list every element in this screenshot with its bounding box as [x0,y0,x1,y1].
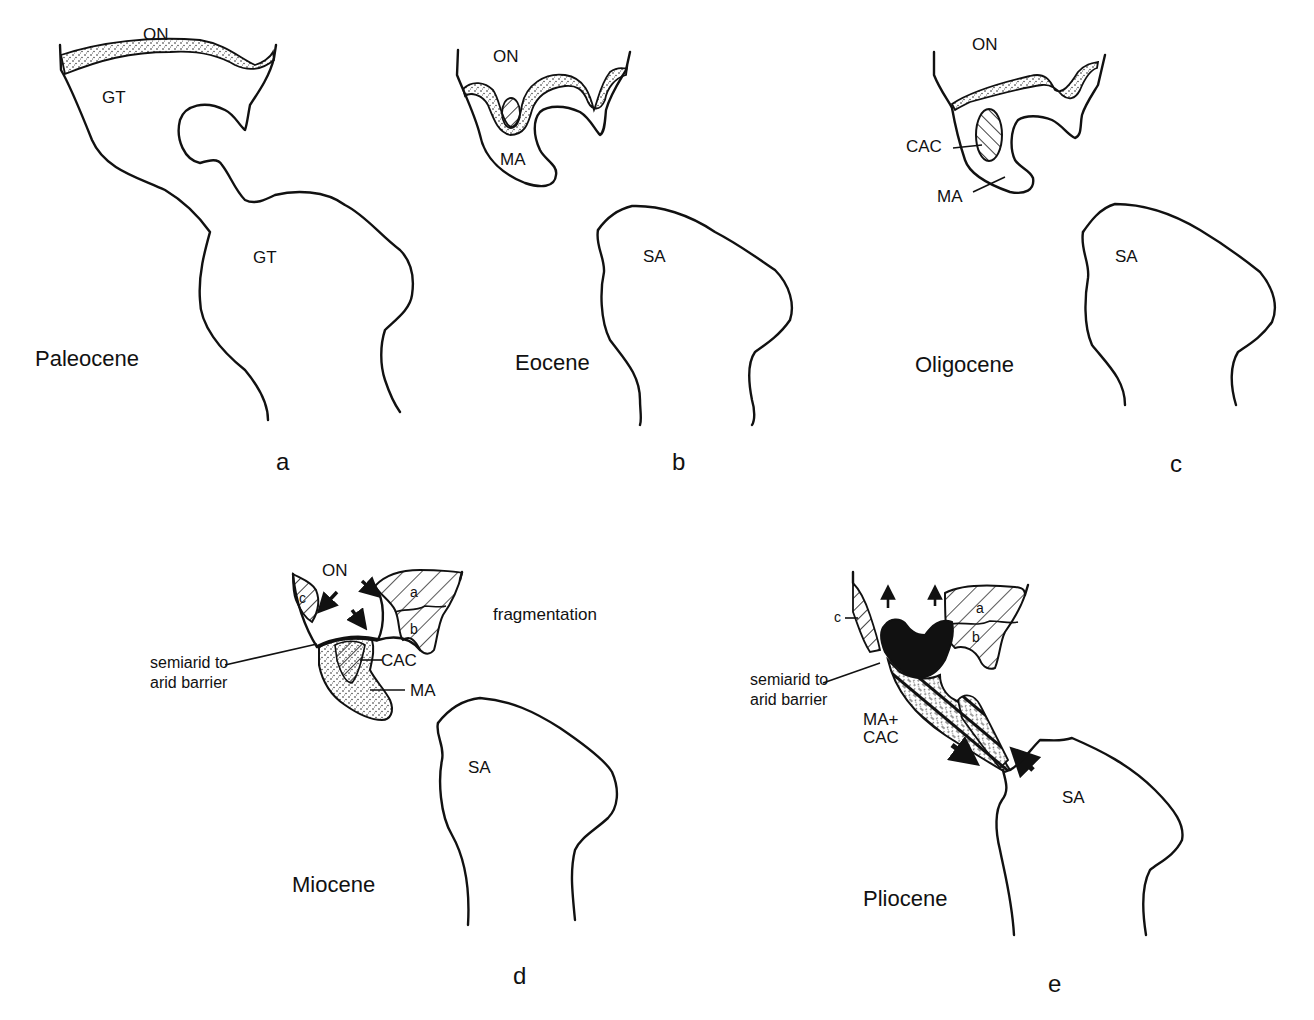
label-sa: SA [1062,788,1085,807]
annotation-barrier-line2: arid barrier [150,674,228,691]
label-on: ON [143,25,169,44]
label-a: a [410,584,418,600]
annotation-barrier-line1: semiarid to [750,671,828,688]
panel-letter: a [276,448,290,475]
panel-d: ON c a b CAC MA SA fragmentation semiari… [150,561,617,989]
label-cac: CAC [381,651,417,670]
panel-e: c a b MA+ CAC SA semiarid to arid barrie… [750,572,1183,997]
label-c: c [834,609,841,625]
label-b: b [410,621,418,637]
annotation-barrier-line2: arid barrier [750,691,828,708]
epoch-label: Pliocene [863,886,947,911]
panel-b: ON MA SA Eocene b [457,47,792,475]
epoch-label: Eocene [515,350,590,375]
epoch-label: Oligocene [915,352,1014,377]
panel-a: ON GT GT Paleocene a [35,25,413,475]
label-gt-north: GT [102,88,126,107]
label-on: ON [972,35,998,54]
label-ma: MA [500,150,526,169]
panel-letter: c [1170,450,1182,477]
annotation-fragmentation: fragmentation [493,605,597,624]
label-ma: MA [410,681,436,700]
label-on: ON [493,47,519,66]
annotation-barrier-line1: semiarid to [150,654,228,671]
panel-letter: e [1048,970,1061,997]
label-a: a [976,600,984,616]
label-c: c [299,590,306,606]
label-sa: SA [1115,247,1138,266]
label-cac: CAC [863,728,899,747]
label-cac: CAC [906,137,942,156]
label-on: ON [322,561,348,580]
epoch-label: Miocene [292,872,375,897]
panel-letter: b [672,448,685,475]
label-sa: SA [643,247,666,266]
label-ma-plus: MA+ [863,710,899,729]
label-gt-south: GT [253,248,277,267]
panel-letter: d [513,962,526,989]
paleogeography-figure: ON GT GT Paleocene a ON MA SA Eocene b O… [0,0,1314,1020]
panel-c: ON CAC MA SA Oligocene c [906,35,1275,477]
epoch-label: Paleocene [35,346,139,371]
label-b: b [972,629,980,645]
label-sa: SA [468,758,491,777]
label-ma: MA [937,187,963,206]
